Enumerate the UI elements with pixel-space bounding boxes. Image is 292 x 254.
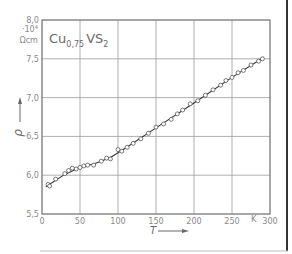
arrow-up-icon <box>18 97 22 104</box>
data-point <box>181 108 185 112</box>
y-tick-label: 7,0 <box>26 93 39 103</box>
arrow-right-icon <box>182 229 189 233</box>
y-tick-label: 6,0 <box>26 170 39 180</box>
y-unit: Ωcm <box>19 35 38 45</box>
y-unit-exponent: ·10⁴ <box>22 24 38 34</box>
data-point <box>211 88 215 92</box>
y-tick-label: 7,5 <box>26 54 39 64</box>
data-point <box>249 63 253 67</box>
data-point <box>154 125 158 129</box>
x-tick-label: 100 <box>110 216 125 226</box>
y-axis-label: ρ <box>11 97 25 137</box>
data-point <box>146 131 150 135</box>
data-point <box>67 169 71 173</box>
data-point <box>236 71 240 75</box>
x-unit: K <box>251 214 257 224</box>
data-point <box>188 102 192 106</box>
data-point <box>230 75 234 79</box>
data-point <box>48 184 52 188</box>
data-point <box>224 79 228 83</box>
x-tick-label: 0 <box>39 216 44 226</box>
data-point <box>63 172 67 176</box>
data-point <box>116 148 120 152</box>
data-point <box>86 163 90 167</box>
data-point <box>175 112 179 116</box>
data-point <box>54 177 58 181</box>
data-point <box>139 137 143 141</box>
data-point <box>260 57 264 61</box>
data-point <box>70 166 74 170</box>
data-point <box>241 68 245 72</box>
x-tick-label: 200 <box>186 216 201 226</box>
data-point <box>99 159 103 163</box>
data-point <box>162 122 166 126</box>
resistivity-chart: 5,56,06,57,07,58,0 050100150200250300 Cu… <box>0 0 292 254</box>
data-point <box>203 93 207 97</box>
y-tick-label: 5,5 <box>26 209 39 219</box>
grid-lines <box>42 20 270 214</box>
data-point <box>219 83 223 87</box>
data-point <box>82 164 86 168</box>
x-tick-label: 250 <box>224 216 239 226</box>
svg-text:ρ: ρ <box>11 129 25 137</box>
data-point <box>92 163 96 167</box>
y-tick-label: 6,5 <box>26 131 39 141</box>
y-tick-labels: 5,56,06,57,07,58,0 <box>26 15 39 219</box>
data-point <box>257 59 261 63</box>
svg-text:T: T <box>150 225 157 236</box>
x-tick-label: 50 <box>75 216 85 226</box>
data-point <box>125 145 129 149</box>
data-point <box>131 141 135 145</box>
data-point <box>78 165 82 169</box>
data-point <box>169 117 173 121</box>
x-axis-label: T <box>150 225 189 236</box>
x-tick-label: 300 <box>262 216 277 226</box>
data-point <box>196 99 200 103</box>
data-point <box>74 167 78 171</box>
data-point <box>105 156 109 160</box>
x-tick-labels: 050100150200250300 <box>39 216 277 226</box>
data-point <box>108 157 112 161</box>
chart-title: Cu0,75VS2 <box>49 31 108 49</box>
data-point <box>120 149 124 153</box>
